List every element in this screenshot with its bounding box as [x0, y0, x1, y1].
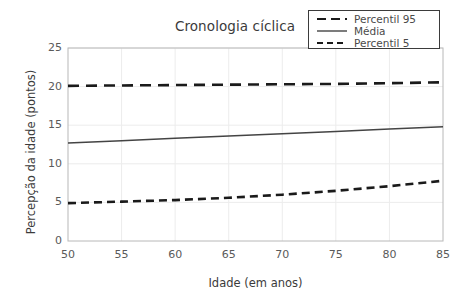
x-tick-label: 60: [160, 248, 190, 261]
chart-figure: Cronologia cíclica 0510152025 5055606570…: [0, 0, 470, 302]
x-tick-label: 65: [214, 248, 244, 261]
y-tick-label: 15: [40, 118, 62, 131]
x-tick-label: 50: [53, 248, 83, 261]
y-tick-label: 20: [40, 80, 62, 93]
legend-label: Percentil 5: [354, 37, 409, 49]
y-tick-label: 25: [40, 41, 62, 54]
x-tick-label: 80: [374, 248, 404, 261]
x-axis-title: Idade (em anos): [68, 276, 443, 290]
legend-swatch-dashed-short-icon: [315, 37, 349, 49]
y-tick-label: 5: [40, 195, 62, 208]
x-tick-label: 85: [428, 248, 458, 261]
plot-background: [68, 48, 443, 241]
legend-swatch-dashed-long-icon: [315, 13, 349, 25]
x-tick-label: 75: [321, 248, 351, 261]
x-tick-label: 55: [107, 248, 137, 261]
y-tick-label: 10: [40, 157, 62, 170]
legend-label: Média: [354, 25, 386, 37]
y-tick-label: 0: [40, 234, 62, 247]
legend-label: Percentil 95: [354, 13, 416, 25]
x-tick-label: 70: [267, 248, 297, 261]
y-axis-title: Percepção da idade (pontos): [24, 47, 38, 257]
legend-swatch-solid-icon: [315, 25, 349, 37]
legend-item-percentil-5: Percentil 5: [309, 36, 441, 49]
chart-legend: Percentil 95 Média Percentil 5: [308, 10, 440, 49]
